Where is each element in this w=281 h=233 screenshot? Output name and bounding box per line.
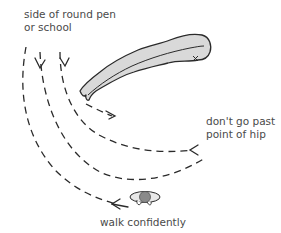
arrowheads [35,58,198,209]
diagram-canvas [0,0,281,233]
arrow-down-right-icon [60,58,69,66]
horse-icon [80,34,211,100]
nose-dashes [86,104,112,116]
handler-icon [130,192,160,205]
arrow-inner-left-icon [190,145,198,155]
arrow-down-left-icon [35,58,45,68]
